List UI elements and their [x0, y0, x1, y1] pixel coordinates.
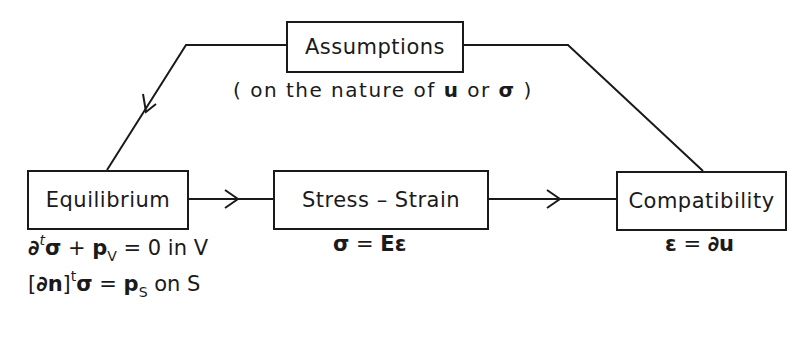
edge-assumptions-equilibrium: [107, 45, 286, 170]
symbol-u: u: [444, 78, 460, 102]
stress-strain-label: Stress – Strain: [302, 188, 460, 212]
equilibrium-box: Equilibrium: [27, 170, 189, 230]
assumptions-note: ( on the nature of u or σ ): [233, 78, 533, 102]
symbol-sigma: σ: [499, 78, 516, 102]
assumptions-box: Assumptions: [286, 21, 464, 73]
assumptions-label: Assumptions: [305, 35, 445, 59]
equilibrium-equation-volume: ∂tσ + pV = 0 in V: [28, 232, 208, 264]
equilibrium-label: Equilibrium: [46, 188, 170, 212]
compatibility-equation: ε = ∂u: [665, 232, 734, 256]
compatibility-box: Compatibility: [616, 171, 787, 231]
stress-strain-equation: σ = Eε: [333, 232, 406, 256]
edge-assumptions-compatibility: [463, 45, 703, 171]
stress-strain-box: Stress – Strain: [273, 170, 489, 230]
compatibility-label: Compatibility: [628, 189, 774, 213]
equilibrium-equation-surface: [∂n]tσ = pS on S: [28, 268, 200, 300]
